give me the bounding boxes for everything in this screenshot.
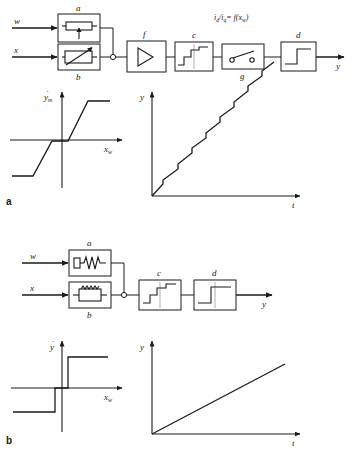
block-g-label: g	[240, 71, 245, 81]
plot-b-left-ylabel: y .	[49, 334, 54, 352]
panel-label-b: b	[6, 435, 12, 446]
plot-a-left-curve	[12, 101, 110, 176]
block-d-label: d	[296, 30, 301, 40]
block-c-b-label: c	[157, 268, 161, 278]
annotation-close: )	[245, 13, 249, 22]
summing-node-a	[110, 54, 115, 59]
panel-b-plot-right: y t	[139, 341, 300, 448]
input-label-w-b: w	[30, 251, 36, 261]
panel-a-plot-right: y t	[139, 62, 300, 210]
transfer-annotation: id/iq= f(xw)	[214, 13, 249, 23]
block-f[interactable]	[127, 41, 166, 72]
plot-b-right-ylabel: y	[139, 342, 144, 352]
plot-b-left-xlabel-sub: w	[108, 397, 112, 403]
plot-a-left-xlabel-sub: w	[108, 149, 112, 155]
block-b-label: b	[76, 72, 81, 82]
figure-root: w x a b	[0, 0, 356, 453]
panel-label-a: a	[6, 196, 12, 207]
plot-b-left-ylabel-dot: .	[52, 334, 54, 344]
block-b-b-label: b	[87, 310, 92, 320]
block-f-label: f	[143, 29, 147, 39]
svg-text:xw: xw	[103, 144, 112, 155]
technical-figure: w x a b	[0, 0, 356, 453]
plot-b-right-curve	[152, 364, 285, 434]
output-label-y-b: y	[261, 299, 266, 309]
plot-b-left-xlabel: xw	[103, 392, 112, 403]
plot-a-right-curve	[152, 62, 274, 196]
plot-a-right-ylabel: y	[139, 92, 144, 102]
input-label-x: x	[13, 45, 18, 55]
block-d[interactable]	[281, 42, 316, 71]
plot-a-right-xlabel: t	[292, 200, 295, 210]
plot-a-left-ylabel: ym .	[43, 84, 53, 103]
plot-a-left-ylabel-sub: m	[48, 97, 53, 103]
block-g[interactable]	[222, 44, 264, 69]
plot-b-left-curve	[13, 357, 108, 412]
panel-b-block-diagram: w x a b	[22, 238, 272, 320]
block-a-b-label: a	[87, 238, 92, 248]
svg-text:xw: xw	[103, 392, 112, 403]
input-label-x-b: x	[29, 283, 34, 293]
block-a-label: a	[76, 3, 81, 13]
panel-a: w x a b	[6, 3, 344, 210]
panel-a-plot-left: ym . xw	[10, 84, 122, 188]
plot-a-left-ylabel-dot: .	[47, 84, 49, 94]
panel-b: w x a b	[6, 238, 300, 448]
svg-text:id/iq= f(xw): id/iq= f(xw)	[214, 13, 249, 23]
block-c-label: c	[192, 30, 196, 40]
plot-a-left-xlabel: xw	[103, 144, 112, 155]
block-d-b-label: d	[212, 268, 217, 278]
summing-node-b	[121, 292, 126, 297]
panel-a-block-diagram: w x a b	[12, 3, 344, 82]
input-label-w: w	[14, 16, 20, 26]
output-label-y: y	[335, 61, 340, 71]
panel-b-plot-left: y . xw	[11, 334, 122, 432]
plot-b-right-xlabel: t	[292, 438, 295, 448]
